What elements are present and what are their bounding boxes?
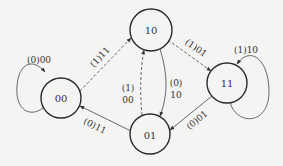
label-10-to-01-line2: 10 (170, 90, 182, 100)
state-00: 00 (41, 78, 81, 118)
label-10-to-01-line1: (0) (170, 78, 183, 88)
label-self-loop-00: (0)00 (27, 55, 51, 65)
state-label-01: 01 (144, 130, 157, 141)
label-01-to-10-line2: 00 (122, 95, 134, 105)
state-10: 10 (130, 9, 172, 51)
label-11-to-01: (0)01 (185, 108, 210, 131)
state-11: 11 (207, 63, 247, 103)
edge-01-to-10 (141, 50, 144, 115)
state-01: 01 (130, 114, 170, 154)
state-label-11: 11 (221, 78, 234, 89)
state-label-10: 10 (145, 25, 158, 36)
label-01-to-10-line1: (1) (122, 83, 135, 93)
self-loop-00 (17, 64, 45, 112)
label-self-loop-11: (1)10 (234, 45, 258, 55)
state-label-00: 00 (55, 93, 68, 104)
state-diagram: 10 00 11 01 (0)00 (1)11 (1)01 (1)10 (0) … (0, 0, 283, 166)
edge-10-to-01 (160, 49, 166, 116)
label-10-to-11: (1)01 (183, 37, 209, 59)
label-01-to-00: (0)11 (82, 116, 108, 136)
label-00-to-10: (1)11 (88, 45, 112, 69)
